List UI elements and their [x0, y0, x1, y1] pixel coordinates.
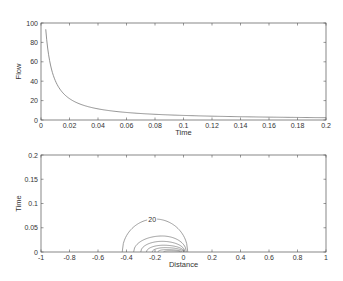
y-tick-label: 0.15 — [24, 176, 38, 183]
x-axis-label: Distance — [169, 260, 198, 269]
y-axis-label: Flow — [14, 63, 23, 79]
y-tick-label: 0 — [34, 117, 38, 124]
contour-label: 20 — [148, 216, 156, 223]
x-tick-label: 0.18 — [291, 122, 305, 129]
x-tick-label: -0.2 — [149, 254, 161, 261]
x-tick-label: 0.16 — [262, 122, 276, 129]
x-tick-label: 0 — [39, 122, 43, 129]
x-tick-label: 0.4 — [236, 254, 246, 261]
axes-flow: 00.020.040.060.080.10.120.140.160.180.20… — [14, 20, 331, 138]
x-tick-label: -1 — [38, 254, 44, 261]
x-tick-label: -0.4 — [120, 254, 132, 261]
x-tick-label: 0.04 — [91, 122, 105, 129]
x-tick-label: 0.06 — [120, 122, 134, 129]
x-tick-label: 0.02 — [63, 122, 77, 129]
x-tick-label: 0.8 — [293, 254, 303, 261]
x-tick-label: 1 — [324, 254, 328, 261]
x-axis-label: Time — [175, 128, 191, 137]
flow-curve — [46, 29, 326, 117]
x-tick-label: 0.2 — [207, 254, 217, 261]
x-tick-label: 0.2 — [321, 122, 331, 129]
y-tick-label: 0.05 — [24, 224, 38, 231]
y-axis-label: Time — [14, 195, 23, 211]
y-tick-label: 60 — [30, 58, 38, 65]
y-tick-label: 40 — [30, 78, 38, 85]
axes-frame — [41, 155, 326, 252]
y-tick-label: 0.2 — [28, 152, 38, 159]
x-tick-label: 0.12 — [205, 122, 219, 129]
x-tick-label: 0.08 — [148, 122, 162, 129]
x-tick-label: 0.6 — [264, 254, 274, 261]
x-tick-label: -0.6 — [92, 254, 104, 261]
chart: 00.020.040.060.080.10.120.140.160.180.20… — [0, 0, 343, 281]
x-tick-label: -0.8 — [63, 254, 75, 261]
y-tick-label: 0 — [34, 249, 38, 256]
y-tick-label: 0.1 — [28, 200, 38, 207]
y-tick-label: 80 — [30, 39, 38, 46]
x-tick-label: 0.14 — [234, 122, 248, 129]
axes-contour: -1-0.8-0.6-0.4-0.200.20.40.60.8100.050.1… — [14, 152, 328, 270]
y-tick-label: 100 — [26, 20, 38, 27]
y-tick-label: 20 — [30, 97, 38, 104]
